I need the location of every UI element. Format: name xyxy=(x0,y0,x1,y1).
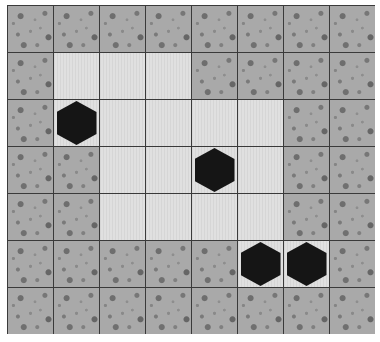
wall-tile xyxy=(329,52,375,99)
wall-tile xyxy=(7,146,53,193)
wall-tile xyxy=(329,240,375,287)
floor-tile[interactable] xyxy=(53,99,99,146)
wall-tile xyxy=(7,5,53,52)
floor-tile[interactable] xyxy=(237,99,283,146)
hexagon-block-icon[interactable] xyxy=(57,101,97,145)
wall-tile xyxy=(329,99,375,146)
game-board xyxy=(7,5,375,334)
wall-tile xyxy=(329,287,375,334)
wall-tile xyxy=(191,52,237,99)
wall-tile xyxy=(145,287,191,334)
wall-tile xyxy=(7,240,53,287)
floor-tile[interactable] xyxy=(237,240,283,287)
wall-tile xyxy=(283,287,329,334)
wall-tile xyxy=(53,193,99,240)
floor-tile[interactable] xyxy=(237,146,283,193)
wall-tile xyxy=(283,193,329,240)
floor-tile[interactable] xyxy=(237,193,283,240)
wall-tile xyxy=(145,240,191,287)
wall-tile xyxy=(53,146,99,193)
hexagon-block-icon[interactable] xyxy=(287,242,327,286)
wall-tile xyxy=(237,287,283,334)
wall-tile xyxy=(7,287,53,334)
floor-tile[interactable] xyxy=(145,52,191,99)
wall-tile xyxy=(99,287,145,334)
wall-tile xyxy=(329,5,375,52)
floor-tile[interactable] xyxy=(99,193,145,240)
wall-tile xyxy=(191,287,237,334)
floor-tile[interactable] xyxy=(191,146,237,193)
hexagon-block-icon[interactable] xyxy=(241,242,281,286)
floor-tile[interactable] xyxy=(99,52,145,99)
floor-tile[interactable] xyxy=(191,99,237,146)
wall-tile xyxy=(7,193,53,240)
wall-tile xyxy=(329,146,375,193)
wall-tile xyxy=(7,52,53,99)
floor-tile[interactable] xyxy=(145,99,191,146)
wall-tile xyxy=(145,5,191,52)
wall-tile xyxy=(53,240,99,287)
wall-tile xyxy=(7,99,53,146)
wall-tile xyxy=(283,52,329,99)
wall-tile xyxy=(237,52,283,99)
floor-tile[interactable] xyxy=(53,52,99,99)
wall-tile xyxy=(99,240,145,287)
wall-tile xyxy=(53,5,99,52)
wall-tile xyxy=(99,5,145,52)
hexagon-block-icon[interactable] xyxy=(195,148,235,192)
wall-tile xyxy=(283,5,329,52)
wall-tile xyxy=(191,240,237,287)
floor-tile[interactable] xyxy=(99,99,145,146)
wall-tile xyxy=(53,287,99,334)
wall-tile xyxy=(283,146,329,193)
wall-tile xyxy=(329,193,375,240)
wall-tile xyxy=(283,99,329,146)
floor-tile[interactable] xyxy=(145,193,191,240)
floor-tile[interactable] xyxy=(99,146,145,193)
wall-tile xyxy=(191,5,237,52)
floor-tile[interactable] xyxy=(191,193,237,240)
wall-tile xyxy=(237,5,283,52)
floor-tile[interactable] xyxy=(283,240,329,287)
floor-tile[interactable] xyxy=(145,146,191,193)
